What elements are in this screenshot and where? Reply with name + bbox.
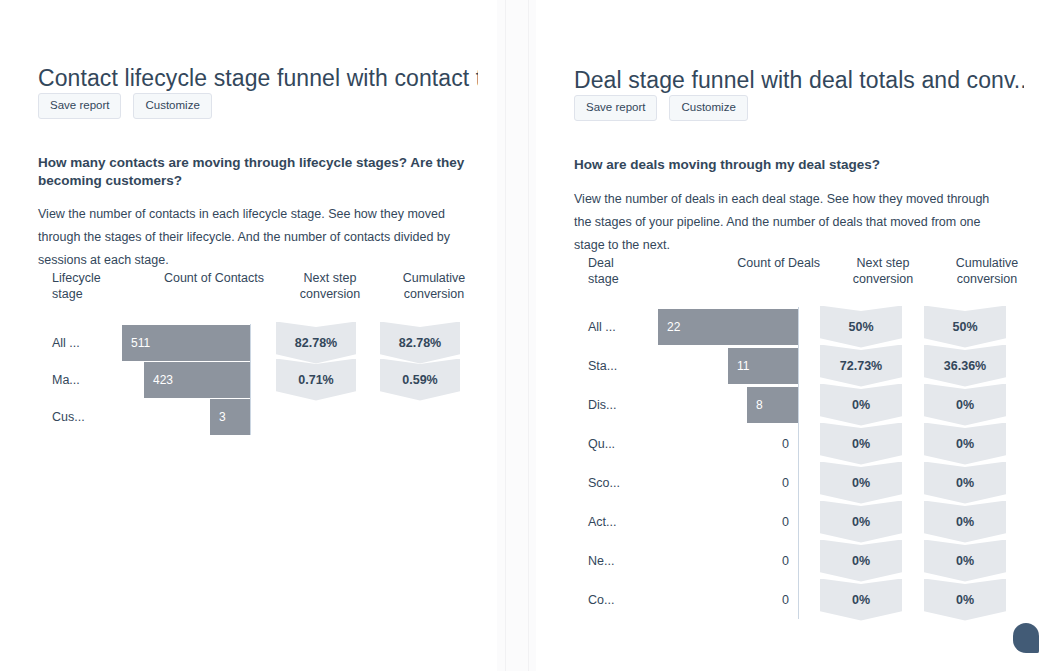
conversion-value: 0% [852,398,870,412]
bar-value-label: 511 [122,336,150,350]
stage-label: Qu... [566,437,658,451]
next-step-conversion-badge: 82.78% [276,322,356,364]
column-header-line: Cumulative [946,255,1028,271]
conversion-value: 82.78% [295,336,337,350]
save-report-button[interactable]: Save report [574,95,657,121]
bar-value-label: 0 [782,515,798,529]
conversion-value: 0% [852,515,870,529]
bar-axis-line [798,307,799,619]
table-row[interactable]: Sco...00%0% [566,463,1026,502]
table-row[interactable]: Ne...00%0% [566,541,1026,580]
bar-axis-line [250,324,251,435]
report-description: View the number of contacts in each life… [38,203,470,272]
customize-button[interactable]: Customize [133,93,211,119]
column-header-line: Lifecycle [52,270,136,286]
next-step-conversion-badge: 72.73% [820,345,902,387]
column-header: Count of Contacts [136,270,264,286]
panel-divider [497,0,536,671]
funnel-bar[interactable]: 423 [144,362,250,398]
stage-label: All ... [566,320,658,334]
conversion-value: 0.71% [298,373,333,387]
next-step-conversion-badge: 0% [820,462,902,504]
bar-cell: 0 [658,554,798,568]
bar-cell: 0 [658,593,798,607]
bar-cell: 423 [122,362,250,398]
table-row[interactable]: All ...2250%50% [566,307,1026,346]
bar-value-label: 0 [782,437,798,451]
conversion-value: 0.59% [402,373,437,387]
conversion-value: 82.78% [399,336,441,350]
cumulative-conversion-badge: 0% [924,540,1006,582]
next-step-conversion-badge: 0.71% [276,359,356,401]
cumulative-conversion-badge: 82.78% [380,322,460,364]
cumulative-conversion-badge: 0% [924,423,1006,465]
column-header-line: Count of Contacts [136,270,264,286]
funnel-bar[interactable]: 8 [747,387,798,423]
bar-cell: 0 [658,437,798,451]
report-question: How are deals moving through my deal sta… [574,156,880,175]
cumulative-conversion-badge: 36.36% [924,345,1006,387]
column-header: Count of Deals [680,255,820,271]
bar-cell: 8 [658,387,798,423]
bar-cell: 511 [122,325,250,361]
next-step-conversion-badge: 0% [820,579,902,621]
chat-bubble-icon[interactable] [1013,623,1039,653]
next-step-conversion-badge: 0% [820,501,902,543]
stage-label: Dis... [566,398,658,412]
table-row[interactable]: Ma...4230.71%0.59% [38,361,478,398]
conversion-value: 0% [852,593,870,607]
conversion-value: 0% [852,476,870,490]
table-row[interactable]: Act...00%0% [566,502,1026,541]
table-row[interactable]: Sta...1172.73%36.36% [566,346,1026,385]
conversion-value: 0% [852,437,870,451]
bar-value-label: 8 [747,398,763,412]
cumulative-conversion-badge: 0% [924,501,1006,543]
stage-label: Sta... [566,359,658,373]
table-row[interactable]: All ...51182.78%82.78% [38,324,478,361]
bar-value-label: 0 [782,554,798,568]
conversion-value: 0% [956,437,974,451]
column-header-line: Cumulative [394,270,474,286]
column-header-line: conversion [946,271,1028,287]
column-header-line: Next step [842,255,924,271]
table-row[interactable]: Cus...3 [38,398,478,435]
conversion-value: 0% [956,515,974,529]
report-comparison-view: Contact lifecycle stage funnel with cont… [0,0,1055,671]
funnel-bar[interactable]: 22 [658,309,798,345]
customize-button[interactable]: Customize [669,95,747,121]
stage-label: Co... [566,593,658,607]
bar-value-label: 3 [210,410,226,424]
next-step-conversion-badge: 0% [820,540,902,582]
funnel-bar[interactable]: 511 [122,325,250,361]
table-row[interactable]: Dis...80%0% [566,385,1026,424]
column-header: Next stepconversion [290,270,370,302]
bar-value-label: 423 [144,373,173,387]
funnel-bar[interactable]: 11 [728,348,798,384]
column-header-line: Next step [290,270,370,286]
bar-cell: 22 [658,309,798,345]
report-panel-deal-stage-funnel: Deal stage funnel with deal totals and c… [536,0,1055,671]
funnel-bar[interactable]: 3 [210,399,250,435]
column-header-line: conversion [842,271,924,287]
bar-cell: 0 [658,515,798,529]
funnel-rows: All ...2250%50%Sta...1172.73%36.36%Dis..… [566,307,1026,619]
bar-value-label: 22 [658,320,680,334]
next-step-conversion-badge: 0% [820,423,902,465]
next-step-conversion-badge: 50% [820,306,902,348]
report-question: How many contacts are moving through lif… [38,154,468,191]
column-header-line: stage [588,271,680,287]
report-panel-contact-lifecycle-funnel: Contact lifecycle stage funnel with cont… [0,0,497,671]
table-row[interactable]: Qu...00%0% [566,424,1026,463]
next-step-conversion-badge: 0% [820,384,902,426]
column-header: Cumulativeconversion [946,255,1028,287]
funnel-table-contacts: LifecyclestageCount of ContactsNext step… [38,270,478,435]
stage-label: Ma... [38,373,122,387]
save-report-button[interactable]: Save report [38,93,121,119]
table-row[interactable]: Co...00%0% [566,580,1026,619]
column-header: Dealstage [566,255,680,287]
bar-cell: 11 [658,348,798,384]
conversion-value: 0% [956,476,974,490]
stage-label: Cus... [38,410,122,424]
column-header-line: Count of Deals [680,255,820,271]
column-header-line: Deal [588,255,680,271]
